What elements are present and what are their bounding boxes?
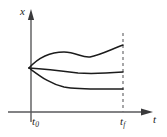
tick-label-t0: t0 (32, 116, 39, 129)
middle-trajectory (29, 68, 123, 73)
lower-trajectory (29, 68, 123, 89)
time-axis-arrowhead (141, 108, 153, 115)
state-axis-arrowhead (28, 9, 34, 20)
figure-canvas (0, 0, 167, 137)
tick-label-t0-subscript: 0 (35, 120, 39, 129)
tick-label-tf-subscript: f (123, 120, 125, 129)
trajectory-figure: x t t0 tf (0, 0, 167, 137)
state-axis-label: x (20, 6, 25, 17)
tick-label-tf: tf (120, 116, 125, 129)
time-axis-label: t (153, 114, 156, 125)
upper-trajectory (29, 45, 123, 68)
